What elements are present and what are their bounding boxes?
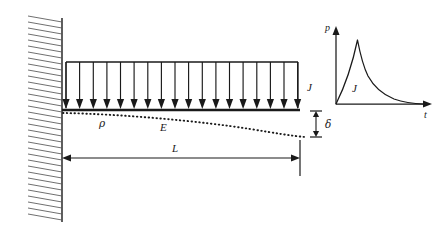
span-label-L: L — [171, 142, 178, 154]
load-arrow — [267, 62, 274, 109]
load-arrow — [226, 62, 233, 109]
load-arrow — [199, 62, 206, 109]
span-dimension: L — [62, 140, 300, 176]
figure-root: J ρ E δ L p — [0, 0, 443, 233]
load-arrow — [117, 62, 124, 109]
delta-arrowhead-down — [313, 131, 319, 137]
load-arrow — [253, 62, 260, 109]
delta-arrowhead-up — [313, 111, 319, 117]
load-arrow — [62, 62, 69, 109]
density-label: ρ — [98, 117, 106, 129]
figure-canvas: J ρ E δ L p — [0, 0, 443, 233]
plot-y-axis-label: p — [324, 22, 330, 33]
delta-label: δ — [325, 118, 331, 130]
span-arrowhead-right — [291, 155, 300, 162]
load-label-J: J — [307, 81, 313, 93]
span-arrowhead-left — [62, 155, 71, 162]
load-arrow — [131, 62, 138, 109]
load-arrow — [76, 62, 83, 109]
blast-pulse-curve — [336, 40, 424, 104]
load-arrow — [144, 62, 151, 109]
pressure-time-plot: p t J — [324, 22, 432, 120]
modulus-label: E — [159, 121, 167, 133]
impulse-area-label: J — [352, 82, 358, 94]
load-arrow — [171, 62, 178, 109]
fixed-wall-support — [28, 16, 62, 222]
load-arrow — [158, 62, 165, 109]
load-arrow — [280, 62, 287, 109]
plot-x-axis-label: t — [424, 109, 427, 120]
tip-deflection-dimension: δ — [310, 111, 331, 137]
load-arrow — [240, 62, 247, 109]
load-arrow — [185, 62, 192, 109]
load-arrow — [90, 62, 97, 109]
wall-hatching — [28, 16, 62, 220]
plot-y-axis-arrowhead — [333, 26, 340, 35]
load-arrow-group — [62, 62, 301, 109]
load-arrow — [294, 62, 301, 109]
uniform-distributed-load: J — [62, 62, 313, 109]
load-arrow — [212, 62, 219, 109]
load-arrow — [103, 62, 110, 109]
